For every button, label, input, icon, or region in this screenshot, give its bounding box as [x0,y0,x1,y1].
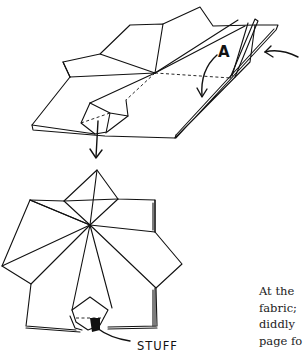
stuff-label: STUFF [137,339,178,353]
stuff-arrow [97,328,130,341]
diagram-svg [0,0,303,360]
text-line: fabric; [259,300,303,317]
push-arrow [265,51,298,57]
down-arrow [96,121,98,157]
instruction-text: At the fabric; diddly page fo [259,283,303,349]
fold-arrow-a [202,55,217,96]
text-line: diddly [259,316,303,333]
text-line: At the [259,283,303,300]
top-folded-star [32,7,278,138]
fold-label-a: A [218,43,230,61]
bottom-star [2,170,182,341]
text-line: page fo [259,333,303,350]
folding-diagram [0,0,303,360]
